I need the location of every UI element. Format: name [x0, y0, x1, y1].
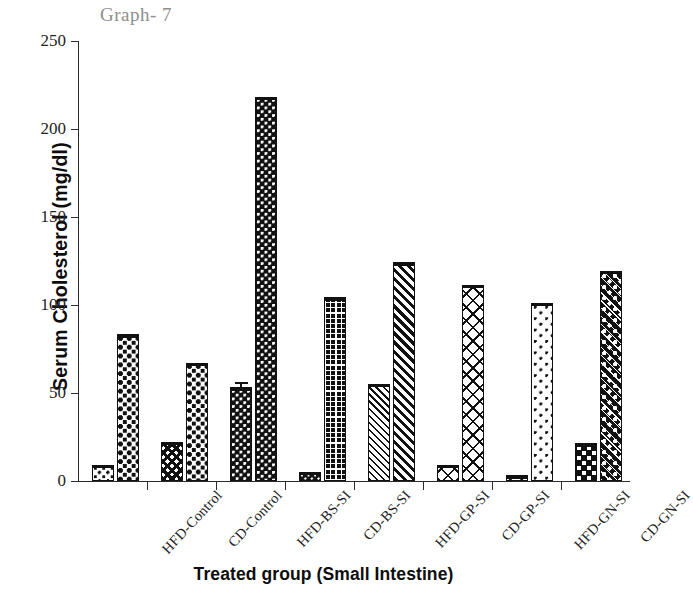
bar-hfd-gn-si-b — [531, 303, 553, 481]
bar-cd-bs-si-b — [324, 298, 346, 481]
x-tick-label-cd-control: CD-Control — [224, 487, 285, 551]
bar-cd-gp-si-b — [462, 286, 484, 481]
bar-cap — [92, 465, 115, 468]
bar-hfd-gp-si-b — [393, 263, 415, 481]
x-tick-label-cd-gp-si: CD-GP-SI — [497, 487, 552, 545]
bar-cap — [186, 363, 209, 366]
bar-hfd-control-a — [92, 465, 114, 481]
bar-cap — [393, 262, 416, 265]
y-tick-50 — [71, 393, 78, 394]
bar-hfd-gn-si-a — [506, 476, 528, 481]
bar-cap — [299, 472, 322, 475]
x-tick-label-cd-gn-si: CD-GN-SI — [636, 487, 693, 546]
y-tick-label: 150 — [6, 207, 66, 227]
y-tick-label: 250 — [6, 31, 66, 51]
bar-cap — [368, 384, 391, 387]
bar-hfd-control-b — [117, 335, 139, 481]
bar-hfd-bs-si-b — [255, 97, 277, 481]
x-tick-label-hfd-control: HFD-Control — [158, 487, 225, 557]
y-tick-250 — [71, 41, 78, 42]
x-axis-tick-labels: HFD-ControlCD-ControlHFD-BS-SICD-BS-SIHF… — [78, 487, 630, 565]
bar-cap — [506, 475, 529, 478]
bar-cap — [255, 97, 278, 100]
graph-title: Graph- 7 — [100, 4, 172, 26]
y-tick-150 — [71, 217, 78, 218]
x-tick-label-hfd-gn-si: HFD-GN-SI — [570, 487, 633, 553]
bar-cd-control-b — [186, 363, 208, 481]
y-tick-100 — [71, 305, 78, 306]
bar-hfd-gp-si-a — [368, 384, 390, 481]
x-tick-label-hfd-bs-si: HFD-BS-SI — [293, 487, 354, 551]
y-tick-0 — [71, 481, 78, 482]
y-tick-label: 0 — [6, 471, 66, 491]
error-bar-cap — [235, 382, 248, 384]
plot-area: 050100150200250 — [78, 41, 630, 481]
y-tick-label: 200 — [6, 119, 66, 139]
bar-cd-gn-si-b — [600, 272, 622, 481]
bar-cap — [531, 303, 554, 306]
bar-cap — [575, 443, 598, 446]
bar-cd-bs-si-a — [299, 472, 321, 481]
bar-cd-control-a — [161, 442, 183, 481]
bar-cap — [161, 442, 184, 445]
bar-cap — [324, 297, 347, 300]
bar-cd-gp-si-a — [437, 465, 459, 481]
x-tick-label-hfd-gp-si: HFD-GP-SI — [431, 487, 492, 551]
y-tick-label: 100 — [6, 295, 66, 315]
y-tick-200 — [71, 129, 78, 130]
y-axis-line — [78, 41, 79, 482]
x-axis-title: Treated group (Small Intestine) — [0, 564, 647, 585]
bar-hfd-bs-si-a — [230, 388, 252, 481]
y-tick-label: 50 — [6, 383, 66, 403]
x-tick-label-cd-bs-si: CD-BS-SI — [359, 487, 414, 544]
bar-cap — [437, 465, 460, 468]
bar-cap — [462, 285, 485, 288]
bar-cap — [600, 271, 623, 274]
bar-cd-gn-si-a — [575, 444, 597, 481]
bar-cap — [117, 334, 140, 337]
